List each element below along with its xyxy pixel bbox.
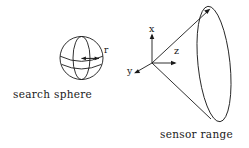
axis-label-x: x [149, 23, 154, 34]
cone-base-ellipse [192, 5, 236, 124]
diagram-canvas [0, 0, 249, 148]
caption-search-sphere: search sphere [13, 88, 92, 100]
sphere-radius-arrowhead-right [95, 57, 100, 61]
axis-label-z: z [174, 45, 179, 56]
axis-label-y: y [127, 65, 132, 76]
sensor-cone-group [152, 5, 236, 124]
sensor-geometry-diagram: search sphere sensor range x z y r [0, 0, 249, 148]
axis-x-arrowhead [150, 33, 155, 39]
sphere-radius-label: r [104, 45, 108, 55]
sphere-equator-lower-arc [62, 64, 102, 69]
sphere-radius-arrowhead-left [81, 57, 86, 61]
axis-z-arrowhead [171, 61, 177, 66]
coordinate-axes-group [134, 33, 177, 73]
caption-sensor-range: sensor range [160, 128, 233, 140]
search-sphere-group [60, 37, 103, 80]
cone-upper-generatrix [152, 10, 209, 63]
